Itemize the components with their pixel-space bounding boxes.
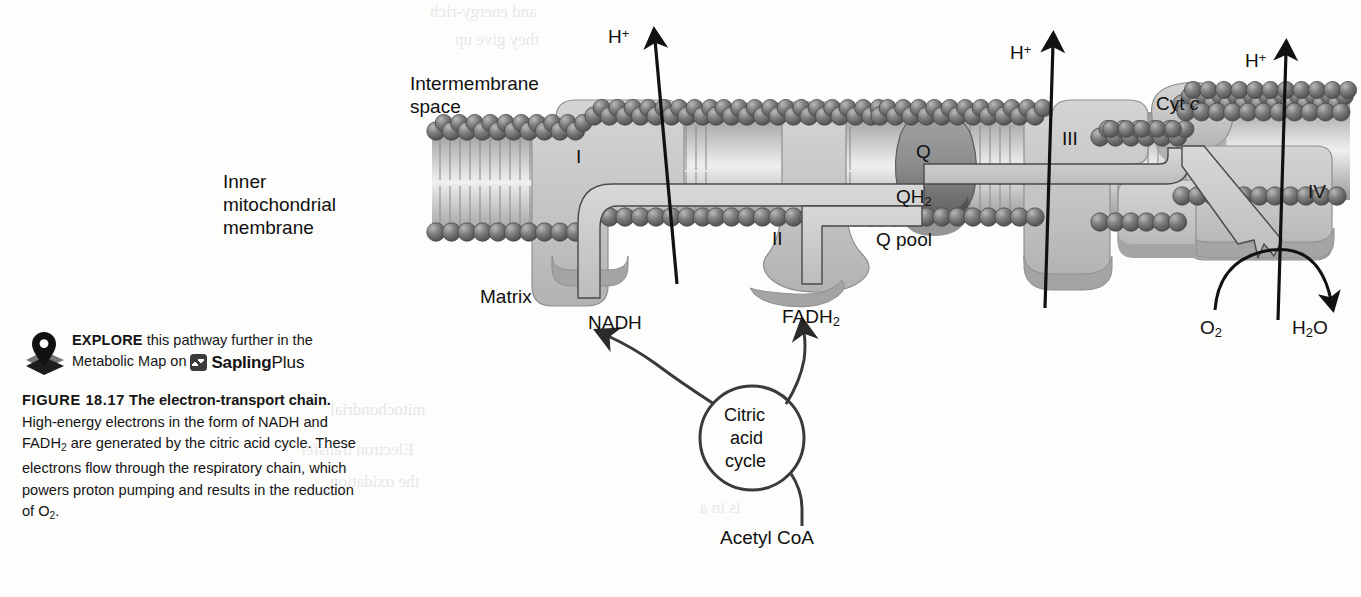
ubiquinone-q-label: Q: [916, 140, 931, 163]
inner-membrane-label-3: membrane: [223, 216, 314, 239]
proton-label-3: H+: [1245, 46, 1266, 72]
proton-label-1: H+: [608, 22, 629, 48]
inner-membrane-label-1: Inner: [223, 170, 266, 193]
intermembrane-space-label-2: space: [410, 95, 461, 118]
citric-acid-cycle-label-2: acid: [730, 427, 763, 450]
fadh2-label: FADH2: [782, 305, 840, 333]
caption-seg-3: .: [55, 503, 59, 519]
q-pool-label: Q pool: [876, 228, 932, 251]
explore-line-1: EXPLORE this pathway further in the: [72, 330, 313, 351]
intermembrane-space-label: Intermembrane: [410, 72, 539, 95]
complex-i-label: I: [576, 145, 581, 168]
figure-body: High-energy electrons in the form of NAD…: [22, 414, 356, 520]
figure-number: FIGURE 18.17: [22, 392, 125, 408]
water-label: H2O: [1292, 316, 1328, 344]
figure-caption: FIGURE 18.17 The electron-transport chai…: [22, 390, 358, 526]
nadh-label: NADH: [588, 311, 642, 334]
figure-title: The electron-transport chain.: [129, 392, 331, 408]
proton-label-2: H+: [1010, 38, 1031, 64]
caption-seg-2: are generated by the citric acid cycle. …: [22, 435, 356, 519]
matrix-label: Matrix: [480, 285, 532, 308]
sapling-wave-icon: [190, 354, 207, 371]
ubiquinol-qh2-label: QH2: [896, 185, 932, 213]
citric-acid-cycle-label-3: cycle: [725, 450, 766, 473]
complex-ii-label: II: [772, 227, 783, 250]
cytochrome-c-label: Cyt c: [1156, 92, 1199, 115]
complex-iv-label: IV: [1308, 180, 1326, 203]
acetyl-coa-label: Acetyl CoA: [720, 526, 814, 549]
complex-iii-label: III: [1062, 127, 1078, 150]
explore-callout: EXPLORE this pathway further in the Meta…: [22, 328, 352, 380]
explore-line-2: Metabolic Map on SaplingPlus: [72, 351, 313, 373]
inner-membrane-label-2: mitochondrial: [223, 193, 336, 216]
map-pin-icon: [22, 330, 68, 380]
figure-canvas: and energy-richthey give upmitochondrial…: [0, 0, 1361, 597]
sapling-plus-logo[interactable]: SaplingPlus: [190, 352, 304, 373]
citric-acid-cycle-arrows: [608, 332, 805, 526]
oxygen-label: O2: [1200, 316, 1222, 344]
citric-acid-cycle-label-1: Citric: [724, 404, 765, 427]
